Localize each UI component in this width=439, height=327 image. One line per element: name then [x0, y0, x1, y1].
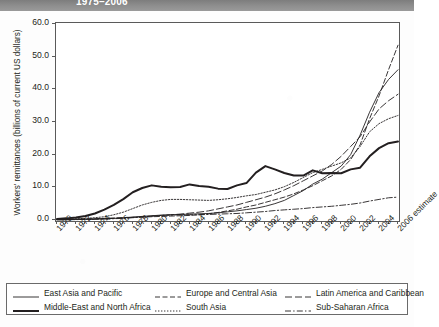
plot-lines: [56, 23, 399, 221]
y-tick-label: 10.0: [15, 180, 49, 190]
legend-label: South Asia: [186, 302, 226, 312]
legend-item: Latin America and Caribbean: [285, 286, 424, 299]
legend: East Asia and PacificMiddle-East and Nor…: [6, 283, 408, 315]
legend-item: Middle-East and North Africa: [13, 300, 151, 313]
series-line: [57, 94, 398, 219]
x-tick-label: 2006 estimate: [395, 189, 439, 233]
y-tick-label: 30.0: [15, 115, 49, 125]
legend-item: Sub-Saharan Africa: [285, 300, 389, 313]
chart-title: 1975–2006: [76, 0, 128, 7]
legend-label: Sub-Saharan Africa: [316, 302, 389, 312]
series-line: [57, 142, 398, 219]
series-line: [57, 45, 398, 219]
legend-item: South Asia: [155, 300, 226, 313]
legend-swatch: [155, 288, 181, 298]
legend-swatch: [285, 302, 311, 312]
legend-swatch: [13, 288, 39, 298]
legend-swatch: [13, 302, 39, 312]
legend-item: Europe and Central Asia: [155, 286, 277, 299]
y-tick-label: 50.0: [15, 50, 49, 60]
legend-swatch: [155, 302, 181, 312]
y-tick-label: 20.0: [15, 148, 49, 158]
plot-area: [55, 22, 400, 222]
series-line: [57, 70, 398, 220]
header-band-fill: [0, 0, 414, 11]
legend-label: Middle-East and North Africa: [44, 302, 151, 312]
series-line: [57, 115, 398, 219]
header-band: 1975–2006: [0, 0, 414, 11]
legend-swatch: [285, 288, 311, 298]
y-tick-label: 60.0: [15, 17, 49, 27]
legend-label: Latin America and Caribbean: [316, 288, 424, 298]
y-tick-label: 0.0: [15, 213, 49, 223]
y-tick-label: 40.0: [15, 82, 49, 92]
legend-item: East Asia and Pacific: [13, 286, 122, 299]
legend-label: Europe and Central Asia: [186, 288, 277, 298]
legend-label: East Asia and Pacific: [44, 288, 122, 298]
